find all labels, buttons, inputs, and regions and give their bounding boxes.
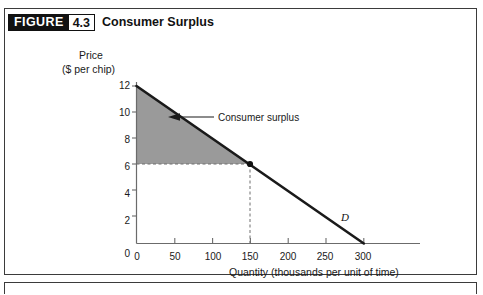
chart-plot xyxy=(0,0,483,295)
y-axis-ticks xyxy=(132,86,137,216)
figure-title: Consumer Surplus xyxy=(95,14,214,31)
figure-label-word: FIGURE xyxy=(8,14,69,31)
figure-number: 4.3 xyxy=(69,14,95,31)
equilibrium-point-marker xyxy=(247,161,253,167)
figure-header: FIGURE 4.3 Consumer Surplus xyxy=(8,14,214,31)
x-axis-ticks xyxy=(175,238,364,244)
figure-container: FIGURE 4.3 Consumer Surplus Price ($ per… xyxy=(0,0,483,295)
